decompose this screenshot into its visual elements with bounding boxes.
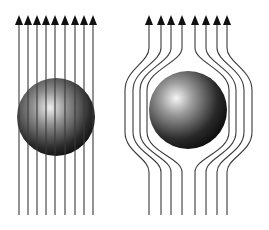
arrow-head-icon	[61, 15, 69, 25]
arrow-head-icon	[15, 15, 23, 25]
field-line	[227, 24, 252, 215]
arrow-head-icon	[157, 15, 165, 25]
arrow-head-icon	[80, 15, 88, 25]
arrow-head-icon	[223, 15, 231, 25]
sphere	[149, 71, 227, 149]
arrow-head-icon	[178, 15, 186, 25]
sphere	[17, 78, 95, 156]
arrow-head-icon	[213, 15, 221, 25]
arrow-head-icon	[167, 15, 175, 25]
diagram-canvas	[0, 0, 269, 230]
arrow-head-icon	[202, 15, 210, 25]
arrow-head-icon	[24, 15, 32, 25]
arrow-head-icon	[33, 15, 41, 25]
arrow-head-icon	[145, 15, 153, 25]
field-lines-diagram	[0, 0, 269, 230]
right-panel-expelled-field	[125, 15, 252, 215]
arrow-head-icon	[89, 15, 97, 25]
arrow-head-icon	[71, 15, 79, 25]
arrow-head-icon	[51, 15, 59, 25]
field-line	[125, 24, 149, 215]
left-panel-penetrating-field	[15, 15, 97, 215]
arrow-head-icon	[42, 15, 50, 25]
arrow-head-icon	[191, 15, 199, 25]
